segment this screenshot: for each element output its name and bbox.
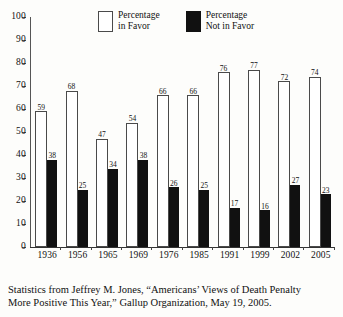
bar-group: 7617 — [218, 17, 240, 247]
x-axis-tick-label: 1969 — [129, 251, 148, 261]
bar-value-label: 17 — [231, 200, 239, 208]
x-axis-tick-label: 2005 — [311, 251, 330, 261]
x-axis-tick — [273, 247, 274, 250]
bar-in-favor: 77 — [248, 70, 260, 247]
y-axis-tick-label: 70 — [16, 81, 30, 91]
bar-not-in-favor: 23 — [321, 194, 331, 247]
bar-in-favor: 76 — [218, 72, 230, 247]
figure-caption: Statistics from Jeffrey M. Jones, “Ameri… — [8, 283, 338, 309]
x-axis-tick — [60, 247, 61, 250]
x-axis-tick — [212, 247, 213, 250]
x-axis-tick — [303, 247, 304, 250]
x-axis-tick — [91, 247, 92, 250]
figure-page: Percentage in Favor Percentage Not in Fa… — [0, 0, 343, 317]
y-axis-tick-label: 40 — [16, 150, 30, 160]
x-axis-tick-label: 1936 — [37, 251, 56, 261]
bar-group: 6626 — [157, 17, 179, 247]
bar-group: 4734 — [96, 17, 118, 247]
y-axis-tick-label: 50 — [16, 127, 30, 137]
bar-value-label: 74 — [311, 69, 319, 77]
bar-in-favor: 74 — [309, 77, 321, 247]
bar-in-favor: 47 — [96, 139, 108, 247]
bar-not-in-favor: 34 — [108, 169, 118, 247]
x-axis-tick — [121, 247, 122, 250]
caption-line-1: Statistics from Jeffrey M. Jones, “Ameri… — [8, 283, 338, 296]
bar-not-in-favor: 16 — [260, 210, 270, 247]
bar-not-in-favor: 25 — [78, 190, 88, 248]
bar-in-favor: 66 — [187, 95, 199, 247]
bar-value-label: 34 — [109, 161, 117, 169]
bar-not-in-favor: 27 — [290, 185, 300, 247]
bar-value-label: 66 — [189, 88, 197, 96]
bar-not-in-favor: 38 — [47, 160, 57, 247]
x-axis-tick — [151, 247, 152, 250]
y-axis-tick-label: 20 — [16, 196, 30, 206]
bar-chart: Percentage in Favor Percentage Not in Fa… — [0, 0, 343, 276]
bar-in-favor: 68 — [66, 91, 78, 247]
bar-not-in-favor: 25 — [199, 190, 209, 248]
y-axis-tick-label: 80 — [16, 58, 30, 68]
bar-value-label: 47 — [98, 131, 106, 139]
bar-group: 7716 — [248, 17, 270, 247]
bar-group: 7227 — [278, 17, 300, 247]
bar-not-in-favor: 26 — [169, 187, 179, 247]
y-axis-tick-label: 0 — [21, 242, 30, 252]
x-axis-tick — [334, 247, 335, 250]
x-axis-tick-label: 1976 — [159, 251, 178, 261]
y-axis-tick-label: 60 — [16, 104, 30, 114]
bar-group: 5938 — [35, 17, 57, 247]
bar-group: 6825 — [66, 17, 88, 247]
x-axis-tick — [243, 247, 244, 250]
bar-value-label: 38 — [140, 152, 148, 160]
x-axis-tick-label: 2002 — [281, 251, 300, 261]
bar-value-label: 26 — [170, 180, 178, 188]
caption-line-2: More Positive This Year,” Gallup Organiz… — [8, 296, 338, 309]
bar-value-label: 59 — [37, 104, 45, 112]
x-axis-tick-label: 1956 — [68, 251, 87, 261]
bar-value-label: 16 — [261, 203, 269, 211]
bar-group: 5438 — [126, 17, 148, 247]
bar-in-favor: 59 — [35, 111, 47, 247]
x-axis-tick-label: 1999 — [250, 251, 269, 261]
bar-value-label: 68 — [68, 83, 76, 91]
x-axis-tick-label: 1991 — [220, 251, 239, 261]
y-axis-tick-label: 10 — [16, 219, 30, 229]
bar-in-favor: 54 — [126, 123, 138, 247]
x-axis-tick — [182, 247, 183, 250]
x-axis-tick-label: 1965 — [98, 251, 117, 261]
bar-value-label: 66 — [159, 88, 167, 96]
plot-area: 5938682547345438662666257617771672277423 — [31, 17, 335, 247]
bar-not-in-favor: 17 — [230, 208, 240, 247]
bar-value-label: 27 — [292, 177, 300, 185]
bar-not-in-favor: 38 — [138, 160, 148, 247]
y-axis-tick-label: 90 — [16, 35, 30, 45]
bar-value-label: 72 — [281, 74, 289, 82]
y-axis-tick-label: 100 — [11, 12, 30, 22]
bar-value-label: 76 — [220, 65, 228, 73]
bar-value-label: 38 — [48, 152, 56, 160]
y-axis-tick-label: 30 — [16, 173, 30, 183]
bar-group: 6625 — [187, 17, 209, 247]
x-axis-tick-label: 1985 — [189, 251, 208, 261]
bar-value-label: 23 — [322, 187, 330, 195]
bar-group: 7423 — [309, 17, 331, 247]
bar-value-label: 54 — [129, 115, 137, 123]
bar-value-label: 25 — [79, 182, 87, 190]
bar-value-label: 25 — [200, 182, 208, 190]
bar-in-favor: 66 — [157, 95, 169, 247]
bar-in-favor: 72 — [278, 81, 290, 247]
bar-value-label: 77 — [250, 62, 258, 70]
